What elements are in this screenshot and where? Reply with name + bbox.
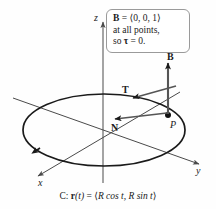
axis-label-y: y xyxy=(196,166,200,176)
axis-label-z: z xyxy=(94,13,98,23)
vector-label-b: B xyxy=(167,52,174,62)
vector-diagram-figure: z y x B T N P B = ⟨0, 0, 1⟩ at all point… xyxy=(0,0,216,209)
caption-prefix: C: xyxy=(60,191,71,201)
x-axis xyxy=(38,92,180,176)
callout-line-3-prefix: so xyxy=(113,36,124,46)
callout-line-3-suffix: = 0. xyxy=(128,36,145,46)
axis-label-x: x xyxy=(38,178,42,188)
tangent-vector-arrow xyxy=(133,86,176,98)
figure-caption: C: r(t) = ⟨R cos t, R sin t⟩ xyxy=(0,190,216,201)
caption-components: R cos t, R sin t xyxy=(98,191,153,201)
callout-line-2: at all points, xyxy=(113,25,184,37)
callout-box: B = ⟨0, 0, 1⟩ at all points, so τ = 0. xyxy=(106,9,190,53)
callout-line-3: so τ = 0. xyxy=(113,36,184,48)
caption-argument: (t) xyxy=(75,191,84,201)
caption-close: ⟩ xyxy=(153,191,157,201)
caption-equals: = ⟨ xyxy=(84,191,98,201)
vector-label-t: T xyxy=(122,85,129,95)
callout-line-1-value: = ⟨0, 0, 1⟩ xyxy=(119,13,160,23)
vector-label-n: N xyxy=(111,123,118,133)
point-label-p: P xyxy=(170,120,176,130)
normal-vector-arrow xyxy=(115,113,167,119)
callout-line-1: B = ⟨0, 0, 1⟩ xyxy=(113,13,184,25)
